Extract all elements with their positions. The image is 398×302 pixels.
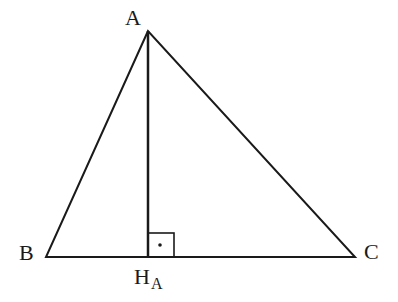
triangle-diagram: A B C H A bbox=[0, 0, 398, 302]
vertex-label-b: B bbox=[19, 240, 34, 265]
right-angle-dot bbox=[158, 243, 162, 247]
foot-label-subscript: A bbox=[151, 275, 163, 292]
foot-label-h: H bbox=[134, 264, 150, 289]
vertex-label-a: A bbox=[125, 5, 141, 30]
triangle-abc bbox=[46, 31, 355, 257]
vertex-label-c: C bbox=[364, 239, 379, 264]
